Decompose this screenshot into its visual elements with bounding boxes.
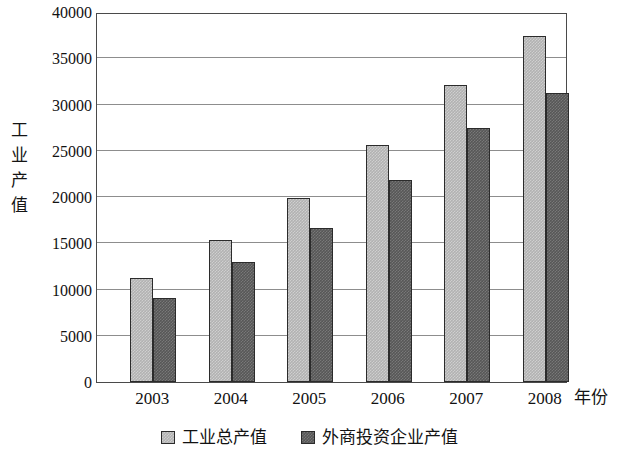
y-axis-tick-label: 20000 [30,190,92,206]
bar [546,93,569,382]
bar [287,198,310,382]
y-axis-tick-label: 5000 [30,329,92,345]
y-axis-tick-label: 40000 [30,5,92,21]
x-axis-tick-label: 2004 [201,389,261,409]
y-axis-tick-label: 25000 [30,144,92,160]
y-axis-tick-labels: 0500010000150002000025000300003500040000 [30,0,92,460]
x-axis-tick-label: 2006 [358,389,418,409]
legend-label: 外商投资企业产值 [322,428,458,447]
chart-legend: 工业总产值外商投资企业产值 [0,428,619,447]
legend-item[interactable]: 外商投资企业产值 [301,428,458,447]
bar [467,128,490,382]
bar [153,298,176,382]
legend-swatch-icon [301,431,315,444]
bars-layer [97,14,566,382]
x-axis-tick-label: 2003 [122,389,182,409]
x-axis-tick-label: 2005 [279,389,339,409]
y-axis-tick-label: 35000 [30,51,92,67]
y-axis-title-char: 工 [6,118,32,143]
y-axis-tick-label: 30000 [30,98,92,114]
bar [209,240,232,382]
legend-item[interactable]: 工业总产值 [161,428,267,447]
bar-chart: 工业产值 05000100001500020000250003000035000… [0,0,619,460]
bar [366,145,389,382]
legend-swatch-icon [161,431,175,444]
y-axis-tick-label: 0 [30,375,92,391]
plot-area [96,13,567,383]
y-axis-title-char: 产 [6,168,32,193]
y-axis-title-char: 值 [6,193,32,218]
x-axis-title: 年份 [574,388,608,408]
x-axis-tick-label: 2007 [436,389,496,409]
legend-label: 工业总产值 [182,428,267,447]
y-axis-tick-label: 10000 [30,283,92,299]
bar [130,278,153,382]
bar [232,262,255,382]
y-axis-tick-label: 15000 [30,236,92,252]
x-axis-tick-labels: 200320042005200620072008 [96,389,567,413]
bar [444,85,467,382]
y-axis-title-char: 业 [6,143,32,168]
x-axis-tick-label: 2008 [515,389,575,409]
bar [523,36,546,382]
bar [310,228,333,382]
bar [389,180,412,382]
y-axis-title: 工业产值 [6,118,32,218]
